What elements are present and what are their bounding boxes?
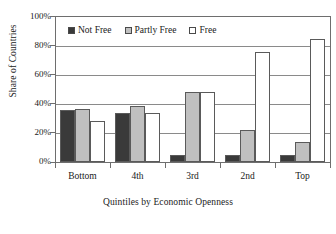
x-tick-label-top: Top bbox=[275, 170, 330, 182]
x-tick-label-bottom: Bottom bbox=[55, 170, 110, 182]
x-tick-mark bbox=[220, 163, 221, 168]
legend-label: Free bbox=[199, 25, 216, 36]
bar-3rd-free bbox=[200, 92, 215, 162]
bar-group-3rd bbox=[170, 17, 221, 162]
y-axis-title: Share of Countries bbox=[8, 1, 18, 121]
legend-label: Not Free bbox=[78, 25, 112, 36]
x-tick-label-4th: 4th bbox=[110, 170, 165, 182]
legend-swatch-icon bbox=[189, 27, 196, 34]
legend: Not Free Partly Free Free bbox=[68, 25, 216, 36]
bar-bottom-not-free bbox=[60, 110, 75, 162]
bar-bottom-partly-free bbox=[75, 109, 90, 162]
y-axis-tick-labels: 100% 80% 60% 40% 20% 0% bbox=[20, 11, 51, 163]
bar-3rd-not-free bbox=[170, 155, 185, 162]
bar-4th-not-free bbox=[115, 113, 130, 162]
x-tick-mark bbox=[330, 163, 331, 168]
x-axis-title: Quintiles by Economic Openness bbox=[0, 196, 336, 208]
bar-top-not-free bbox=[280, 155, 295, 162]
y-tick-label: 20% bbox=[20, 127, 51, 138]
bar-2nd-free bbox=[255, 52, 270, 162]
x-tick-mark bbox=[275, 163, 276, 168]
bar-group-top bbox=[280, 17, 331, 162]
y-tick-label: 100% bbox=[20, 11, 51, 22]
bar-group-2nd bbox=[225, 17, 276, 162]
bar-4th-free bbox=[145, 113, 160, 162]
bar-chart: Share of Countries 100% 80% 60% 40% 20% … bbox=[0, 0, 336, 234]
x-axis-tick-labels: Bottom 4th 3rd 2nd Top bbox=[55, 170, 331, 184]
y-tick-label: 40% bbox=[20, 98, 51, 109]
legend-swatch-icon bbox=[68, 27, 75, 34]
bar-group-bottom bbox=[60, 17, 111, 162]
y-tick-label: 0% bbox=[20, 156, 51, 167]
bar-4th-partly-free bbox=[130, 106, 145, 162]
bar-2nd-partly-free bbox=[240, 130, 255, 162]
bar-top-free bbox=[310, 39, 325, 162]
x-tick-mark bbox=[110, 163, 111, 168]
x-tick-label-3rd: 3rd bbox=[165, 170, 220, 182]
legend-label: Partly Free bbox=[135, 25, 177, 36]
y-tick-label: 80% bbox=[20, 40, 51, 51]
bar-top-partly-free bbox=[295, 142, 310, 162]
legend-item-not-free: Not Free bbox=[68, 25, 112, 36]
bar-groups bbox=[56, 17, 330, 162]
y-tick-label: 60% bbox=[20, 69, 51, 80]
bar-2nd-not-free bbox=[225, 155, 240, 162]
x-tick-mark bbox=[165, 163, 166, 168]
legend-item-partly-free: Partly Free bbox=[125, 25, 177, 36]
legend-item-free: Free bbox=[189, 25, 216, 36]
x-tick-label-2nd: 2nd bbox=[220, 170, 275, 182]
legend-swatch-icon bbox=[125, 27, 132, 34]
x-tick-mark bbox=[55, 163, 56, 168]
bar-3rd-partly-free bbox=[185, 92, 200, 162]
bar-group-4th bbox=[115, 17, 166, 162]
bar-bottom-free bbox=[90, 121, 105, 162]
